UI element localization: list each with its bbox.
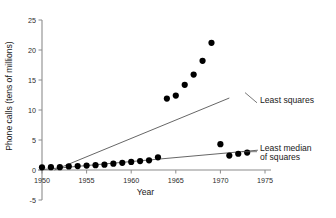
data-point [128,159,134,165]
data-point [75,163,81,169]
data-point [137,158,143,164]
data-point [244,150,250,156]
least-median-of-squares-annotation-label: of squares [260,152,300,162]
data-point [119,160,125,166]
least-squares-annotation-label: Least squares [260,95,314,105]
data-point [208,40,214,46]
chart-figure: -50510152025195019551960196519701975Year… [0,0,336,218]
x-axis-title: Year [137,187,155,197]
x-tick-label: 1955 [79,176,95,185]
y-tick-label: 25 [28,16,36,25]
y-tick-label: 0 [32,166,36,175]
data-point [101,162,107,168]
x-tick-label: 1975 [257,176,273,185]
x-tick-label: 1950 [34,176,50,185]
data-point [182,82,188,88]
data-point [191,72,197,78]
data-point [173,93,179,99]
y-tick-label: 10 [28,106,36,115]
y-tick-label: 5 [32,136,36,145]
data-point [48,164,54,170]
x-tick-label: 1970 [212,176,228,185]
data-point [57,164,63,170]
x-tick-label: 1965 [168,176,184,185]
data-point [235,151,241,157]
data-point [84,163,90,169]
data-point [226,153,232,159]
data-point [66,163,72,169]
data-point [39,164,45,170]
data-point [146,157,152,163]
y-tick-label: -5 [30,196,36,205]
data-point [110,161,116,167]
data-point [92,162,98,168]
y-tick-label: 20 [28,46,36,55]
data-point [217,141,223,147]
data-point [164,96,170,102]
least-squares-leader-line [245,93,257,103]
data-point [199,58,205,64]
y-tick-label: 15 [28,76,36,85]
y-axis-title: Phone calls (tens of millions) [4,41,14,151]
x-tick-label: 1960 [123,176,139,185]
scatter-plot-canvas: -50510152025195019551960196519701975Year… [0,0,336,218]
data-point [155,154,161,160]
